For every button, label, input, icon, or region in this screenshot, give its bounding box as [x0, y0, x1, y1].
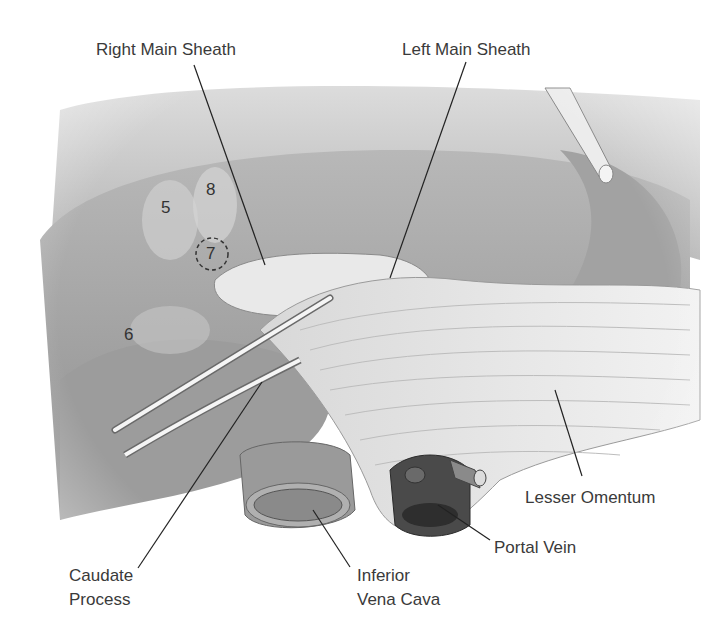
label-caudate-process-line2: Process	[69, 590, 130, 610]
segment-7-label: 7	[206, 244, 215, 264]
segment-6-label: 6	[124, 325, 133, 345]
liver-hilum-drawing	[0, 0, 728, 630]
label-caudate-process-line1: Caudate	[69, 566, 133, 586]
label-left-main-sheath: Left Main Sheath	[402, 40, 531, 60]
label-inferior-vena-cava-line1: Inferior	[357, 566, 410, 586]
segment-5-label: 5	[161, 198, 170, 218]
label-inferior-vena-cava-line2: Vena Cava	[357, 590, 440, 610]
segment-8-label: 8	[206, 180, 215, 200]
label-right-main-sheath: Right Main Sheath	[96, 40, 236, 60]
label-portal-vein: Portal Vein	[494, 538, 576, 558]
label-lesser-omentum: Lesser Omentum	[525, 488, 655, 508]
anatomical-illustration: Right Main Sheath Left Main Sheath Lesse…	[0, 0, 728, 630]
